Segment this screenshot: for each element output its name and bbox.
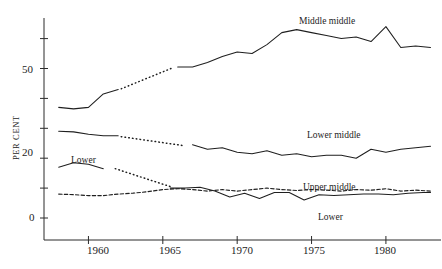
series-label-lower-right: Lower bbox=[318, 212, 343, 222]
chart-figure: 50 20 0 PER CENT 1960 1965 1970 1975 198… bbox=[0, 0, 442, 269]
series-label-lower-left: Lower bbox=[71, 155, 96, 165]
y-tick-label-50: 50 bbox=[22, 63, 33, 75]
x-tick-label-1960: 1960 bbox=[87, 244, 109, 256]
x-tick-label-1975: 1975 bbox=[303, 244, 325, 256]
x-tick-label-1965: 1965 bbox=[159, 244, 181, 256]
y-tick-label-0: 0 bbox=[29, 211, 35, 223]
y-axis-title: PER CENT bbox=[11, 115, 21, 160]
chart-canvas bbox=[0, 0, 442, 269]
series-label-upper-middle: Upper middle bbox=[303, 182, 356, 192]
series-label-lower-middle: Lower middle bbox=[307, 130, 361, 140]
x-tick-label-1970: 1970 bbox=[231, 244, 253, 256]
y-tick-label-20: 20 bbox=[22, 146, 33, 158]
x-tick-label-1980: 1980 bbox=[374, 244, 396, 256]
series-label-middle-middle: Middle middle bbox=[299, 16, 355, 26]
